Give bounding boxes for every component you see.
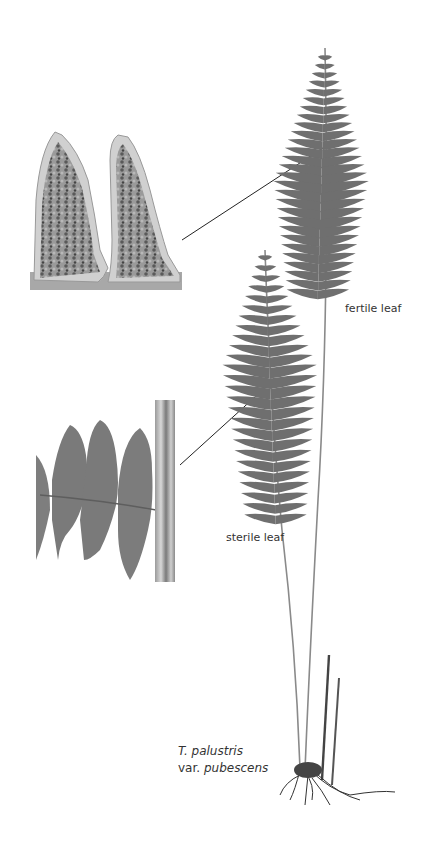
fertile-closeup-inset: [30, 132, 182, 290]
species-name: T. palustris var. pubescens: [178, 743, 268, 777]
fertile-frond: [273, 55, 369, 299]
species-var-prefix: var.: [178, 761, 204, 775]
pinna: [231, 428, 272, 441]
pinna: [233, 439, 273, 451]
old-stipe: [332, 678, 339, 785]
pinna: [287, 289, 318, 299]
fertile-leaf-label: fertile leaf: [345, 302, 401, 315]
pinna: [244, 514, 275, 524]
pinna: [324, 72, 337, 78]
pinna: [266, 275, 280, 282]
pinna: [265, 255, 272, 260]
pinna: [306, 89, 324, 96]
pinna: [325, 55, 332, 60]
pinna: [234, 450, 273, 462]
pinna: [238, 471, 274, 483]
pinna: [273, 450, 312, 462]
pinna: [267, 295, 289, 303]
pinna: [251, 275, 265, 282]
pinna: [275, 514, 306, 524]
pinna: [273, 460, 310, 472]
pinna: [258, 255, 265, 260]
pinna: [239, 482, 274, 493]
pinna: [325, 64, 335, 70]
pinna: [315, 64, 325, 70]
pinna: [239, 315, 268, 325]
pinna: [324, 89, 342, 96]
fern-illustration: [0, 0, 428, 850]
pinna: [324, 97, 345, 105]
pinna: [272, 428, 313, 441]
species-variety: pubescens: [204, 761, 268, 775]
pinna: [245, 295, 267, 303]
old-stipe: [322, 655, 329, 780]
pinna: [275, 492, 309, 503]
pinna: [318, 289, 349, 299]
pinna: [312, 72, 325, 78]
pinna: [267, 305, 292, 314]
pinna: [232, 335, 268, 347]
pinna: [236, 460, 273, 472]
pinna: [274, 471, 310, 483]
pinna: [318, 55, 325, 60]
pinna: [242, 305, 267, 314]
pinna: [309, 81, 324, 88]
pinna: [323, 114, 349, 123]
pinna: [265, 265, 276, 271]
pinna: [248, 285, 266, 292]
pinna: [243, 503, 275, 514]
pinna: [275, 503, 307, 514]
sterile-leaf-label: sterile leaf: [226, 531, 284, 544]
pinna: [235, 325, 268, 336]
pinna: [268, 315, 297, 325]
pinna: [273, 439, 313, 451]
pinna: [241, 492, 275, 503]
pinna: [268, 335, 304, 347]
pinna: [303, 97, 324, 105]
pinna: [255, 265, 266, 271]
pinna: [324, 81, 339, 88]
pinna: [323, 106, 347, 115]
pinna: [300, 106, 324, 115]
pinna: [268, 325, 301, 336]
pinna: [266, 285, 284, 292]
rhizome-roots: [280, 762, 395, 805]
sterile-closeup-inset: [36, 400, 175, 582]
pinna: [297, 114, 323, 123]
species-line1: T. palustris: [178, 744, 243, 758]
pinna: [274, 482, 309, 493]
